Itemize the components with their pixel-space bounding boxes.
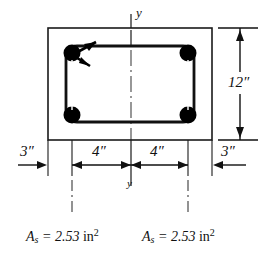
dimension-label-cover-left: 3″ <box>20 144 34 159</box>
steel-area-label-left: As = 2.53 in2 <box>26 228 99 245</box>
rebar-top-right <box>180 45 197 62</box>
dimension-cover-left <box>18 161 47 169</box>
dimension-label-cover-right: 3″ <box>221 144 235 159</box>
steel-area-exponent-right: 2 <box>210 227 215 238</box>
steel-area-unit-left: in <box>83 229 94 244</box>
stirrup-outline <box>66 46 194 122</box>
rebar-group <box>64 45 197 124</box>
dimension-cover-right <box>213 161 246 169</box>
steel-area-symbol-right: A <box>142 229 151 244</box>
steel-area-subscript-right: s <box>151 234 155 245</box>
dimension-spacing-left <box>72 161 131 169</box>
extension-lines <box>48 140 212 176</box>
steel-area-unit-right: in <box>199 229 210 244</box>
y-axis-label-top: y <box>136 6 142 19</box>
steel-area-symbol-left: A <box>26 229 35 244</box>
beam-cross-section-drawing <box>0 0 267 256</box>
dimension-label-spacing-right: 4″ <box>150 144 164 159</box>
figure-page: y y 3″ 4″ 4″ 3″ 12″ As = 2.53 in2 As = 2… <box>0 0 267 256</box>
dimension-label-spacing-left: 4″ <box>92 144 106 159</box>
steel-area-label-right: As = 2.53 in2 <box>142 228 215 245</box>
bar-column-centerlines <box>72 60 188 110</box>
steel-area-equals-right: = <box>158 229 167 244</box>
dimension-spacing-right <box>131 161 188 169</box>
steel-area-exponent-left: 2 <box>94 227 99 238</box>
steel-area-value-left: 2.53 <box>55 229 80 244</box>
y-axis-label-bottom: y <box>127 178 132 189</box>
steel-area-value-right: 2.53 <box>171 229 196 244</box>
dimension-label-height: 12″ <box>228 75 249 90</box>
steel-area-subscript-left: s <box>35 234 39 245</box>
steel-area-equals-left: = <box>42 229 51 244</box>
